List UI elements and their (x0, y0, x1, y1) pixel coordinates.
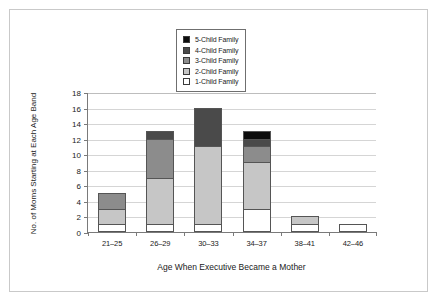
x-axis-tick-label: 42–46 (343, 239, 363, 248)
gridline (88, 202, 376, 203)
bar-segment[interactable] (243, 131, 271, 139)
legend-swatch-icon (183, 47, 190, 54)
y-axis-tick (84, 202, 88, 203)
x-axis-title: Age When Executive Became a Mother (87, 262, 376, 272)
x-axis-tick-label: 21–25 (102, 239, 122, 248)
gridline (88, 155, 376, 156)
y-axis-tick-label: 14 (72, 120, 81, 129)
y-axis-tick (84, 155, 88, 156)
y-axis-tick (84, 186, 88, 187)
bar-segment[interactable] (98, 193, 126, 209)
bar-segment[interactable] (243, 139, 271, 147)
bar-segment[interactable] (291, 224, 319, 232)
y-axis-tick-label: 4 (77, 197, 81, 206)
y-axis-tick-label: 12 (72, 135, 81, 144)
bar-segment[interactable] (146, 178, 174, 225)
legend-item[interactable]: 4-Child Family (183, 45, 238, 55)
y-axis-tick (84, 124, 88, 125)
x-axis-tick-label: 30–33 (198, 239, 218, 248)
bar-stack[interactable] (243, 131, 271, 232)
x-axis-tick (233, 232, 234, 236)
y-axis-tick (84, 217, 88, 218)
bar-segment[interactable] (98, 224, 126, 232)
y-axis-title: No. of Moms Starting at Each Age Band (27, 93, 41, 233)
legend-item[interactable]: 3-Child Family (183, 56, 238, 66)
gridline (88, 140, 376, 141)
bar-segment[interactable] (146, 139, 174, 178)
x-axis-tick (88, 232, 89, 236)
gridline (88, 93, 376, 94)
legend-swatch-icon (183, 57, 190, 64)
x-axis-tick-label: 34–37 (246, 239, 266, 248)
y-axis-tick (84, 109, 88, 110)
x-axis-tick-label: 38–41 (295, 239, 315, 248)
y-axis-tick-label: 10 (72, 151, 81, 160)
x-axis-tick-label: 26–29 (150, 239, 170, 248)
y-axis-tick-label: 2 (77, 213, 81, 222)
x-axis-tick (281, 232, 282, 236)
bar-stack[interactable] (146, 131, 174, 232)
legend-item-label: 3-Child Family (195, 56, 238, 65)
bar-stack[interactable] (98, 193, 126, 232)
gridline (88, 124, 376, 125)
chart-figure: 5-Child Family4-Child Family3-Child Fami… (0, 0, 438, 302)
bar-segment[interactable] (146, 224, 174, 232)
chart-legend: 5-Child Family4-Child Family3-Child Fami… (176, 29, 246, 92)
legend-swatch-icon (183, 68, 190, 75)
bar-segment[interactable] (243, 162, 271, 209)
bar-segment[interactable] (146, 131, 174, 139)
bar-segment[interactable] (194, 224, 222, 232)
y-axis-tick-label: 8 (77, 166, 81, 175)
legend-item-label: 1-Child Family (195, 77, 238, 86)
bar-segment[interactable] (243, 146, 271, 162)
y-axis-tick-label: 16 (72, 104, 81, 113)
bar-segment[interactable] (194, 146, 222, 224)
bar-segment[interactable] (243, 209, 271, 232)
legend-item[interactable]: 5-Child Family (183, 35, 238, 45)
legend-swatch-icon (183, 78, 190, 85)
plot-area: 02468101214161821–2526–2930–3334–3738–41… (87, 93, 376, 233)
gridline (88, 109, 376, 110)
y-axis-tick-label: 0 (77, 229, 81, 238)
legend-item[interactable]: 1-Child Family (183, 77, 238, 87)
y-axis-tick (84, 93, 88, 94)
gridline (88, 171, 376, 172)
y-axis-tick-label: 6 (77, 182, 81, 191)
x-axis-tick (136, 232, 137, 236)
gridline (88, 186, 376, 187)
legend-item-label: 5-Child Family (195, 35, 238, 44)
y-axis-tick-label: 18 (72, 89, 81, 98)
gridline (88, 217, 376, 218)
bar-segment[interactable] (98, 209, 126, 225)
x-axis-tick (184, 232, 185, 236)
bar-stack[interactable] (291, 216, 319, 232)
x-axis-tick (329, 232, 330, 236)
bar-stack[interactable] (194, 108, 222, 232)
legend-item[interactable]: 2-Child Family (183, 66, 238, 76)
legend-item-label: 4-Child Family (195, 46, 238, 55)
legend-swatch-icon (183, 36, 190, 43)
y-axis-tick (84, 171, 88, 172)
legend-item-label: 2-Child Family (195, 67, 238, 76)
bar-segment[interactable] (291, 216, 319, 224)
bar-segment[interactable] (194, 108, 222, 147)
y-axis-title-text: No. of Moms Starting at Each Age Band (30, 92, 39, 233)
bar-stack[interactable] (339, 224, 367, 232)
bar-segment[interactable] (339, 224, 367, 232)
x-axis-tick (376, 232, 377, 236)
y-axis-tick (84, 140, 88, 141)
